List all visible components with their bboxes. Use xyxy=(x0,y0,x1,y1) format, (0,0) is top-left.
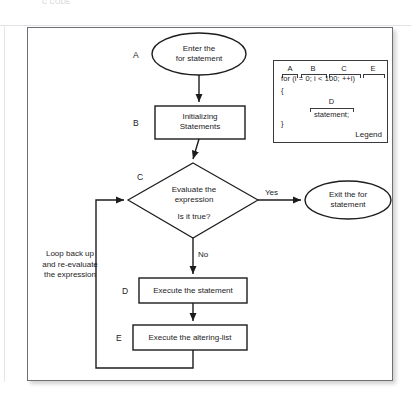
legend-mark-c: C xyxy=(328,64,360,73)
legend-box: A B C E for (i = 0; i < 100; ++i) { D st… xyxy=(273,60,388,143)
legend-body-letter: D xyxy=(274,97,389,106)
loop-note-line2: and re-evaluate xyxy=(34,260,106,271)
legend-mark-b: B xyxy=(300,64,326,73)
edge-label-yes: Yes xyxy=(265,188,278,197)
node-d-letter: D xyxy=(122,286,128,296)
node-exit-for-statement xyxy=(305,181,391,219)
legend-code-line: for (i = 0; i < 100; ++i) xyxy=(281,74,355,83)
node-enter-for-statement xyxy=(152,33,246,75)
node-initializing-statements xyxy=(155,106,245,139)
loop-note-line1: Loop back up xyxy=(34,249,106,260)
screenshot-stage: C CODE Enter the for s xyxy=(0,0,411,399)
node-b-letter: B xyxy=(133,118,139,128)
edge-b-to-c xyxy=(193,139,199,159)
legend-open-brace: { xyxy=(281,86,284,95)
node-evaluate-expression xyxy=(128,163,258,238)
node-e-letter: E xyxy=(116,333,122,343)
node-c-letter: C xyxy=(137,172,143,182)
legend-close-brace: } xyxy=(281,119,284,128)
legend-mark-a: A xyxy=(281,64,299,73)
edge-label-no: No xyxy=(198,250,208,259)
node-execute-statement xyxy=(139,278,247,303)
legend-brace-e xyxy=(363,74,385,78)
legend-body-statement: statement; xyxy=(274,110,389,119)
legend-title: Legend xyxy=(355,130,382,139)
loop-back-note: Loop back up and re-evaluate the express… xyxy=(34,249,106,281)
node-execute-altering-list xyxy=(133,325,247,350)
loop-note-line3: the expression xyxy=(34,270,106,281)
node-a-letter: A xyxy=(133,50,139,60)
legend-mark-e: E xyxy=(362,64,384,73)
